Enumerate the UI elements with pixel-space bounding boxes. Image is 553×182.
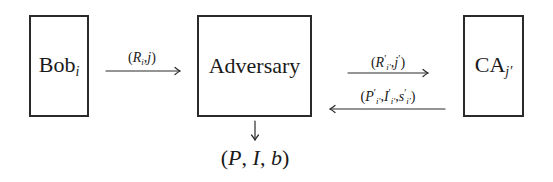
arrow-adversary-to-output xyxy=(252,121,259,140)
edge-label-adversary-to-ca: (R′i′,j′) xyxy=(371,54,405,72)
ca-node: CAj′ xyxy=(463,15,524,117)
ca-label: CAj′ xyxy=(475,54,513,79)
arrow-bob-to-adversary xyxy=(106,68,180,75)
adversary-node: Adversary xyxy=(197,15,312,117)
edge-label-ca-to-adversary: (P′i′,I′i′,s′i′) xyxy=(360,88,415,106)
bob-label: Bobi xyxy=(39,54,80,79)
adversary-label: Adversary xyxy=(209,55,301,77)
output-label: (P, I, b) xyxy=(221,147,289,169)
arrow-ca-to-adversary xyxy=(330,106,445,113)
edge-label-bob-to-adversary: (Ri,j) xyxy=(128,51,156,67)
bob-node: Bobi xyxy=(29,15,89,117)
